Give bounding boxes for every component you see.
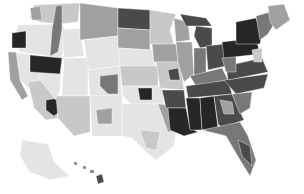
region-hawaii-3 (90, 170, 94, 173)
region-ok-dark (138, 88, 152, 100)
region-nebraska (118, 48, 156, 66)
region-wa-west (30, 6, 42, 20)
region-wyoming (84, 36, 120, 70)
us-choropleth-map (0, 0, 304, 194)
region-nm-accent (96, 108, 112, 124)
region-hawaii-big (96, 174, 104, 184)
region-kansas (120, 66, 158, 86)
region-nj-md (252, 48, 262, 62)
region-hawaii-2 (83, 166, 86, 169)
region-montana (80, 3, 118, 40)
region-hawaii-1 (74, 162, 77, 165)
region-minnesota (150, 10, 176, 44)
region-alaska (20, 140, 70, 180)
region-oregon-dark (12, 31, 26, 48)
region-indiana (194, 48, 206, 76)
region-michigan (194, 26, 212, 48)
map-canvas (0, 0, 304, 194)
region-utah (62, 58, 88, 96)
region-south-dakota (118, 28, 150, 50)
region-nv-dark (30, 55, 62, 74)
region-arkansas (162, 90, 186, 108)
region-west-virginia (222, 56, 236, 72)
region-mo-dark (168, 68, 180, 80)
region-north-dakota (118, 8, 150, 30)
region-arizona (56, 96, 90, 136)
region-iowa (152, 44, 178, 62)
